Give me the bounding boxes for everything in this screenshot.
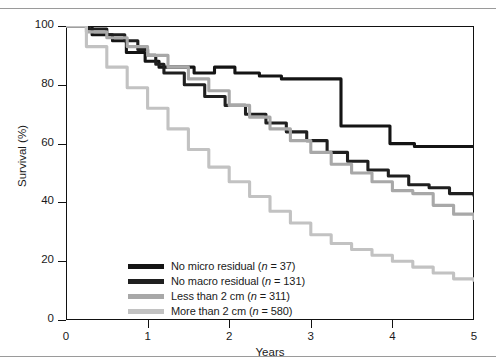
survival-curve-4: [66, 26, 474, 282]
legend-label-4: More than 2 cm (n = 580): [171, 305, 292, 317]
x-tick-label-4: 4: [377, 330, 407, 342]
x-tick-label-3: 3: [296, 330, 326, 342]
x-tick-2: [229, 320, 230, 328]
y-tick-100: [58, 26, 66, 27]
y-tick-20: [58, 261, 66, 262]
legend-item-2: No macro residual (n = 131): [128, 274, 305, 288]
y-tick-label-20: 20: [14, 253, 54, 265]
x-tick-label-5: 5: [459, 330, 489, 342]
legend-label-3: Less than 2 cm (n = 311): [171, 290, 290, 302]
y-tick-label-0: 0: [14, 312, 54, 324]
survival-chart-figure: 020406080100 012345 Survival (%) Years N…: [0, 10, 496, 354]
y-tick-60: [58, 144, 66, 145]
legend-swatch-4: [128, 309, 164, 314]
chart-legend: No micro residual (n = 37)No macro resid…: [128, 259, 305, 318]
legend-swatch-2: [128, 279, 164, 284]
legend-item-4: More than 2 cm (n = 580): [128, 304, 305, 318]
y-tick-label-100: 100: [14, 18, 54, 30]
legend-label-1: No micro residual (n = 37): [171, 260, 295, 272]
legend-item-1: No micro residual (n = 37): [128, 259, 305, 273]
y-tick-40: [58, 202, 66, 203]
y-tick-0: [58, 320, 66, 321]
x-tick-4: [392, 320, 393, 328]
page-rule-top: [0, 8, 496, 9]
legend-label-2: No macro residual (n = 131): [171, 275, 305, 287]
x-tick-3: [311, 320, 312, 328]
y-tick-80: [58, 85, 66, 86]
survival-curve-3: [66, 26, 474, 220]
x-axis-title: Years: [66, 346, 474, 358]
y-axis-title: Survival (%): [16, 86, 28, 226]
legend-swatch-1: [128, 264, 164, 269]
legend-item-3: Less than 2 cm (n = 311): [128, 289, 305, 303]
legend-swatch-3: [128, 294, 164, 299]
x-tick-label-2: 2: [214, 330, 244, 342]
x-tick-label-1: 1: [133, 330, 163, 342]
x-tick-label-0: 0: [51, 330, 81, 342]
x-tick-1: [148, 320, 149, 328]
